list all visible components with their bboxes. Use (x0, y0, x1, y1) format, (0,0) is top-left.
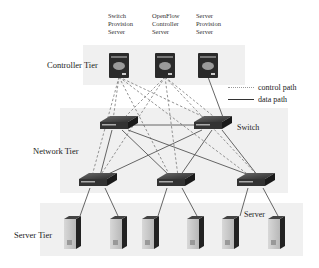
legend-data-path: data path (228, 95, 287, 104)
legend-control-path: control path (228, 83, 296, 92)
switch-bottom-right (237, 173, 275, 186)
controller-server-provision (198, 53, 218, 78)
switch-top-right (194, 116, 232, 129)
controller-switch-provision (109, 53, 129, 78)
switch-bottom-left (79, 173, 117, 186)
server-annotation: Server (244, 210, 265, 219)
legend-data-path-label: data path (258, 95, 287, 104)
legend-control-path-label: control path (258, 83, 296, 92)
server-1 (64, 216, 81, 249)
switch-bottom-middle (157, 173, 195, 186)
solid-line-icon (228, 99, 254, 100)
controller-openflow (155, 53, 175, 78)
server-5 (222, 216, 239, 249)
server-6 (268, 216, 285, 249)
server-3 (142, 216, 159, 249)
server-4 (187, 216, 204, 249)
network-diagram (0, 0, 319, 268)
switch-annotation: Switch (237, 123, 259, 132)
dotted-line-icon (228, 87, 254, 88)
server-2 (110, 216, 127, 249)
